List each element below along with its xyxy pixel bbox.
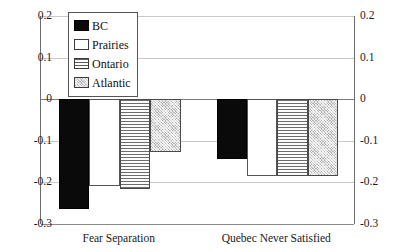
- y-axis-right-tick-label: 0: [360, 93, 366, 105]
- y-axis-left-tick-label: -0.2: [34, 176, 52, 188]
- bar-atlantic-group1: [150, 99, 180, 152]
- y-axis-left-tick-label: 0.1: [38, 52, 52, 64]
- bar-chart: 0.20.20.10.100-0.1-0.1-0.2-0.2-0.3-0.3 F…: [0, 0, 395, 252]
- gridline-neg0p3: [41, 224, 354, 225]
- bar-prairies-group1: [89, 99, 119, 186]
- y-axis-left-tick-label: -0.1: [34, 135, 52, 147]
- bar-atlantic-group2: [308, 99, 338, 176]
- y-axis-right-tick-label: -0.2: [360, 176, 378, 188]
- legend-item-ontario: Ontario: [74, 54, 131, 73]
- y-axis-left-tick-label: -0.3: [34, 218, 52, 230]
- y-axis-right-tick-label: 0.1: [360, 52, 374, 64]
- legend-swatch-prairies-icon: [74, 39, 89, 50]
- bar-ontario-group1: [120, 99, 150, 188]
- legend-label-ontario: Ontario: [92, 58, 129, 70]
- bar-prairies-group2: [247, 99, 277, 176]
- legend-swatch-ontario-icon: [74, 58, 89, 69]
- y-axis-left-tick-label: 0: [46, 93, 52, 105]
- y-axis-right-tick-label: -0.1: [360, 135, 378, 147]
- y-axis-right-tick-label: -0.3: [360, 218, 378, 230]
- y-axis-left-tick-label: 0.2: [38, 10, 52, 22]
- bar-bc-group2: [217, 99, 247, 158]
- legend-item-bc: BC: [74, 16, 131, 35]
- y-axis-right-tick-label: 0.2: [360, 10, 374, 22]
- bar-bc-group1: [59, 99, 89, 209]
- chart-legend: BC Prairies Ontario Atlantic: [68, 12, 138, 97]
- legend-label-bc: BC: [92, 20, 108, 32]
- legend-swatch-atlantic-icon: [74, 77, 89, 88]
- legend-swatch-bc-icon: [74, 20, 89, 31]
- bar-ontario-group2: [277, 99, 307, 176]
- legend-item-atlantic: Atlantic: [74, 73, 131, 92]
- x-axis-category-label: Fear Separation: [83, 232, 156, 244]
- x-axis-category-label: Quebec Never Satisfied: [222, 232, 331, 244]
- legend-item-prairies: Prairies: [74, 35, 131, 54]
- legend-label-prairies: Prairies: [92, 39, 129, 51]
- legend-label-atlantic: Atlantic: [92, 77, 131, 89]
